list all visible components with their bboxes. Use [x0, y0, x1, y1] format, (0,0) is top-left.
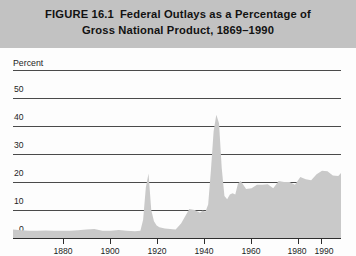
x-tick-mark-1990 — [321, 239, 322, 244]
x-tick-mark-1900 — [110, 239, 111, 244]
x-tick-label-1960: 1960 — [241, 246, 260, 256]
x-tick-mark-1940 — [204, 239, 205, 244]
x-tick-label-1980: 1980 — [287, 246, 306, 256]
figure-number: FIGURE 16.1 — [45, 8, 114, 20]
figure-container: FIGURE 16.1Federal Outlays as a Percenta… — [0, 0, 356, 256]
figure-title-text-1: Federal Outlays as a Percentage of — [120, 8, 311, 20]
figure-title-line-1: FIGURE 16.1Federal Outlays as a Percenta… — [0, 8, 356, 20]
x-tick-label-1940: 1940 — [194, 246, 213, 256]
outlays-area-path — [13, 115, 341, 238]
outlays-area-series — [0, 48, 356, 256]
x-tick-mark-1920 — [157, 239, 158, 244]
figure-title-band: FIGURE 16.1Federal Outlays as a Percenta… — [0, 0, 356, 48]
x-tick-label-1880: 1880 — [53, 246, 72, 256]
figure-title-line-2: Gross National Product, 1869–1990 — [0, 24, 356, 36]
x-tick-label-1900: 1900 — [100, 246, 119, 256]
x-tick-label-1990: 1990 — [314, 246, 333, 256]
x-tick-label-1920: 1920 — [147, 246, 166, 256]
x-tick-mark-1880 — [63, 239, 64, 244]
x-tick-mark-1980 — [298, 239, 299, 244]
chart-plot-area: Percent 50 40 30 20 10 0 1880 1900 1920 … — [0, 48, 356, 256]
x-tick-mark-1960 — [251, 239, 252, 244]
